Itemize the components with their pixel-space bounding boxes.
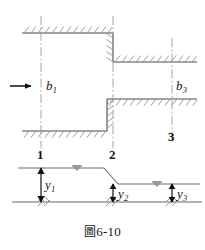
- section-label-2: 2: [109, 148, 116, 161]
- label-y3: y3: [177, 187, 187, 200]
- upper-step-wall: [107, 33, 114, 62]
- figure-container: b1 b3 y1 y2 y3 1 2 3 圖6-10: [0, 0, 205, 250]
- figure-caption-cjk: 圖: [84, 225, 96, 239]
- upper-wall-right: [113, 56, 197, 63]
- lower-wall-right: [107, 99, 197, 106]
- label-y2: y2: [118, 187, 128, 200]
- upper-wall-left: [22, 27, 113, 34]
- dimension-arrow-y1: [37, 167, 44, 203]
- section-label-1: 1: [37, 148, 44, 161]
- label-b1: b1: [46, 79, 57, 92]
- profile-view-group: [12, 166, 202, 207]
- figure-caption-number: 6-10: [96, 224, 121, 239]
- dimension-arrow-y3: [169, 183, 176, 202]
- figure-caption: 圖6-10: [0, 222, 205, 240]
- label-b3: b3: [176, 79, 187, 92]
- section-label-3: 3: [168, 130, 175, 143]
- lower-wall-left: [22, 131, 107, 138]
- label-y1: y1: [45, 178, 55, 191]
- water-surface-transition: [104, 168, 118, 184]
- diagram-canvas: [0, 0, 205, 250]
